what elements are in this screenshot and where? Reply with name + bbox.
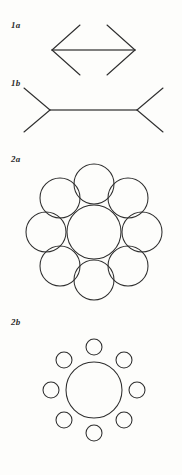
figure-1b-fin-right-lower [137,110,163,132]
figure-1b-fin-left-lower [24,110,50,132]
figure-2a-center-circle [67,205,121,259]
figure-2b-surround-circle-w [43,382,59,398]
figure-1a-fin-left-upper [52,25,80,50]
figure-2b-surround-group [43,339,145,441]
figure-2b-center-circle [66,362,122,418]
figure-1a-fin-left-lower [52,50,80,75]
illusion-figure-plate: 1a 1b 2a [0,0,182,475]
figure-2a-surround-group [26,164,162,300]
figure-2b-surround-circle-e [129,382,145,398]
figure-2a-surround-circle-nw [40,178,80,218]
figure-1b-fin-right-upper [137,88,163,110]
figure-2a-center-group [67,205,121,259]
figure-2b-surround-circle-sw [56,412,72,428]
figure-1a-muller-lyer-outward [0,0,182,78]
figure-1a-fin-right-upper [107,25,135,50]
figure-2a-ebbinghaus-large-surround [0,150,182,312]
figure-1a-fin-right-lower [107,50,135,75]
figure-2b-surround-circle-nw [56,352,72,368]
figure-2b-ebbinghaus-small-surround [0,312,182,475]
figure-2b-surround-circle-ne [116,352,132,368]
figure-2b-surround-circle-s [86,425,102,441]
figure-2b-center-group [66,362,122,418]
figure-2b-surround-circle-n [86,339,102,355]
figure-1b-muller-lyer-inward [0,78,182,150]
figure-2b-surround-circle-se [116,412,132,428]
figure-1b-fin-left-upper [24,88,50,110]
